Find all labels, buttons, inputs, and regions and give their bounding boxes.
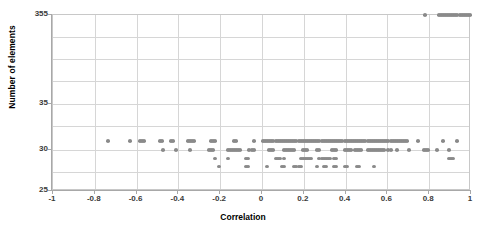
- data-point: [334, 165, 338, 168]
- plot-area: [52, 14, 470, 190]
- gridline-vertical: [346, 15, 347, 189]
- data-point: [334, 157, 338, 160]
- data-point: [265, 165, 269, 168]
- data-point: [389, 148, 393, 151]
- x-tick-mark: [177, 191, 178, 194]
- y-tick-label: 30: [14, 145, 48, 153]
- data-point: [282, 157, 286, 160]
- gridline-horizontal: [53, 59, 469, 60]
- data-point: [468, 13, 472, 16]
- data-point: [128, 139, 132, 142]
- scatter-chart: Number of elements 355353025 -1-0.8-0.6-…: [0, 0, 486, 234]
- data-point: [226, 157, 230, 160]
- x-tick-mark: [136, 191, 137, 194]
- x-tick-label: 0.2: [283, 194, 323, 203]
- data-point: [171, 139, 175, 142]
- gridline-horizontal: [53, 172, 469, 173]
- data-point: [317, 148, 321, 151]
- x-axis-title: Correlation: [0, 212, 486, 222]
- data-point: [416, 139, 420, 142]
- x-tick-mark: [345, 191, 346, 194]
- data-point: [315, 165, 319, 168]
- data-point: [334, 148, 338, 151]
- data-point: [213, 157, 217, 160]
- data-point: [211, 148, 215, 151]
- data-point: [234, 139, 238, 142]
- data-point: [426, 148, 430, 151]
- data-point: [252, 148, 256, 151]
- gridline-horizontal: [53, 37, 469, 38]
- gridline-vertical: [178, 15, 179, 189]
- data-point: [188, 148, 192, 151]
- gridline-horizontal: [53, 81, 469, 82]
- data-point: [357, 165, 361, 168]
- data-point: [405, 139, 409, 142]
- data-point: [441, 139, 445, 142]
- data-point: [161, 148, 165, 151]
- x-tick-mark: [428, 191, 429, 194]
- data-point: [359, 148, 363, 151]
- data-point: [395, 148, 399, 151]
- y-tick-label: 25: [14, 186, 48, 194]
- data-point: [271, 148, 275, 151]
- x-tick-label: -0.8: [74, 194, 114, 203]
- data-point: [345, 165, 349, 168]
- gridline-vertical: [429, 15, 430, 189]
- x-tick-label: 0.8: [408, 194, 448, 203]
- x-tick-label: 0: [241, 194, 281, 203]
- data-point: [305, 148, 309, 151]
- x-tick-mark: [52, 191, 53, 194]
- data-point: [246, 165, 250, 168]
- x-tick-mark: [261, 191, 262, 194]
- x-tick-label: -0.6: [116, 194, 156, 203]
- data-point: [435, 148, 439, 151]
- x-tick-mark: [470, 191, 471, 194]
- data-point: [246, 157, 250, 160]
- gridline-horizontal: [53, 104, 469, 105]
- gridline-vertical: [387, 15, 388, 189]
- data-point: [252, 139, 256, 142]
- gridline-horizontal: [53, 126, 469, 127]
- x-tick-label: -1: [32, 194, 72, 203]
- x-tick-label: -0.4: [157, 194, 197, 203]
- y-tick-mark: [48, 149, 51, 150]
- data-point: [192, 139, 196, 142]
- data-point: [282, 165, 286, 168]
- data-point: [324, 165, 328, 168]
- data-point: [213, 139, 217, 142]
- x-tick-mark: [219, 191, 220, 194]
- data-point: [292, 148, 296, 151]
- data-point: [455, 139, 459, 142]
- data-point: [407, 148, 411, 151]
- data-point: [447, 148, 451, 151]
- gridline-vertical: [220, 15, 221, 189]
- data-point: [299, 165, 303, 168]
- x-tick-label: 0.6: [366, 194, 406, 203]
- y-tick-mark: [48, 190, 51, 191]
- gridline-vertical: [137, 15, 138, 189]
- data-point: [238, 148, 242, 151]
- x-tick-label: 1: [450, 194, 486, 203]
- x-tick-mark: [303, 191, 304, 194]
- x-tick-label: 0.4: [325, 194, 365, 203]
- gridline-vertical: [262, 15, 263, 189]
- data-point: [160, 139, 164, 142]
- data-point: [106, 139, 110, 142]
- y-tick-label: 35: [14, 99, 48, 107]
- x-tick-mark: [386, 191, 387, 194]
- y-tick-label: 355: [14, 10, 48, 18]
- data-point: [309, 157, 313, 160]
- gridline-vertical: [95, 15, 96, 189]
- x-tick-label: -0.2: [199, 194, 239, 203]
- data-point: [174, 148, 178, 151]
- y-tick-mark: [48, 103, 51, 104]
- data-point: [142, 139, 146, 142]
- gridline-vertical: [304, 15, 305, 189]
- y-tick-mark: [48, 14, 51, 15]
- data-point: [423, 13, 427, 16]
- data-point: [451, 157, 455, 160]
- data-point: [372, 165, 376, 168]
- x-tick-mark: [94, 191, 95, 194]
